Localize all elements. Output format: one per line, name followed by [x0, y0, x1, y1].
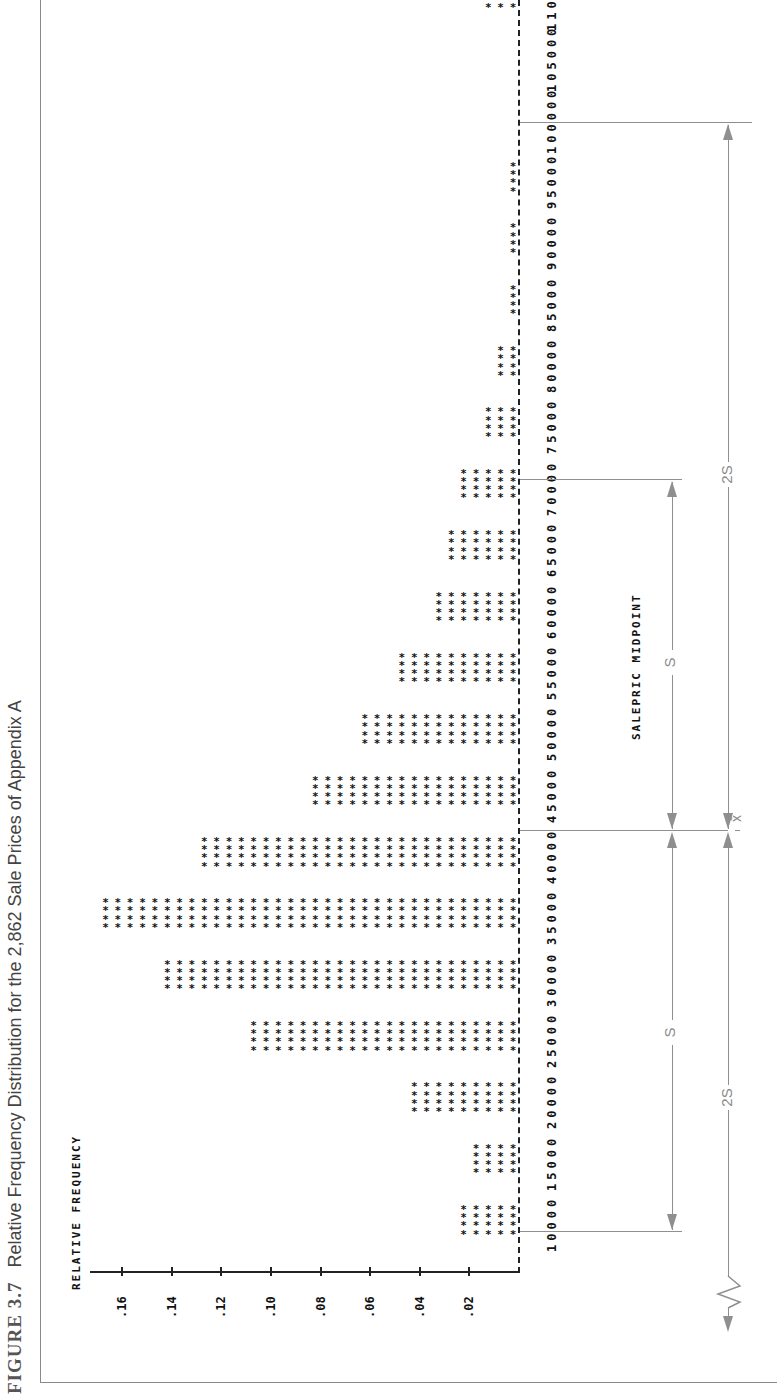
frame-bottom-border [40, 1382, 777, 1383]
mean-reference-line [520, 830, 740, 831]
bar-star: * [286, 1045, 296, 1056]
bar-star: * [471, 1229, 481, 1240]
bar-star: * [496, 370, 506, 381]
bar-star: * [508, 983, 518, 994]
bar-star: * [273, 861, 283, 872]
bar-star: * [347, 861, 357, 872]
bar-star: * [298, 922, 308, 933]
bar-star: * [360, 983, 370, 994]
y-tick-label: .02 [462, 1296, 476, 1318]
bar-star: * [483, 615, 493, 626]
bar-star: * [508, 922, 518, 933]
bar-star: * [409, 1106, 419, 1117]
arrow-up-icon [723, 832, 733, 848]
bar-star: * [162, 983, 172, 994]
bar-star: * [360, 1045, 370, 1056]
bar-star: * [409, 676, 419, 687]
plus-2s-label: 2S [717, 462, 735, 487]
x-tick-label: 85000 [545, 276, 559, 332]
bar-star: * [397, 922, 407, 933]
bar-star: * [496, 1106, 506, 1117]
bar-star: * [409, 861, 419, 872]
bar-star: * [471, 983, 481, 994]
bar-star: * [212, 922, 222, 933]
bar-star: * [236, 922, 246, 933]
bar-star: * [261, 922, 271, 933]
bar-star: * [459, 738, 469, 749]
bar-star: * [199, 861, 209, 872]
bar-star: * [273, 983, 283, 994]
bar-star: * [224, 983, 234, 994]
bar-star: * [360, 861, 370, 872]
arrow-up-icon [667, 832, 677, 848]
arrow-down-icon [723, 813, 733, 829]
arrow-down-icon [667, 1214, 677, 1230]
figure-number: FIGURE 3.7 [4, 1282, 25, 1394]
bar-star: * [224, 861, 234, 872]
bar-star: * [446, 1045, 456, 1056]
y-tick-label: .06 [363, 1296, 377, 1318]
bar-star: * [298, 861, 308, 872]
bar-star: * [335, 861, 345, 872]
bar-star: * [138, 922, 148, 933]
bar-star: * [483, 738, 493, 749]
x-tick-label: 20000 [545, 1073, 559, 1129]
arrow-down-icon [667, 813, 677, 829]
bar-star: * [372, 861, 382, 872]
y-tick-mark [270, 1267, 272, 1276]
minus-s-label: S [664, 1020, 674, 1045]
figure-title: Relative Frequency Distribution for the … [5, 700, 25, 1267]
y-tick-mark [121, 1267, 123, 1276]
bar-star: * [273, 922, 283, 933]
bar-star: * [434, 922, 444, 933]
bar-star: * [434, 799, 444, 810]
bar-star: * [483, 799, 493, 810]
bar-star: * [508, 2, 518, 13]
bar-star: * [310, 983, 320, 994]
bar-star: * [249, 922, 259, 933]
bar-star: * [199, 983, 209, 994]
bar-star: * [286, 861, 296, 872]
bar-star: * [496, 2, 506, 13]
bar-star: * [249, 1045, 259, 1056]
minus-2s-dimension-line [728, 840, 729, 1276]
bar-star: * [434, 1106, 444, 1117]
bar-star: * [459, 554, 469, 565]
x-tick-label: 50000 [545, 705, 559, 761]
x-tick-label: 10000 [545, 1196, 559, 1252]
bar-star: * [397, 1045, 407, 1056]
bar-star: * [422, 861, 432, 872]
bar-star: * [298, 983, 308, 994]
arrow-down-icon [723, 1316, 733, 1332]
x-axis-title: SALEPRIC MIDPOINT [630, 593, 643, 740]
bar-star: * [150, 922, 160, 933]
minus-s-reference-line [520, 1231, 682, 1232]
bar-star: * [175, 922, 185, 933]
bar-star: * [483, 922, 493, 933]
bar-star: * [385, 983, 395, 994]
bar-star: * [471, 676, 481, 687]
bar-star: * [335, 983, 345, 994]
bar-star: * [471, 799, 481, 810]
bar-star: * [249, 983, 259, 994]
bar-star: * [347, 983, 357, 994]
bar-star: * [347, 922, 357, 933]
x-tick-label: 40000 [545, 828, 559, 884]
bar-star: * [372, 1045, 382, 1056]
bar-star: * [397, 861, 407, 872]
plus-s-reference-line [520, 479, 682, 480]
bar-star: * [508, 554, 518, 565]
bar-star: * [310, 799, 320, 810]
bar-star: * [422, 799, 432, 810]
bar-star: * [335, 1045, 345, 1056]
bar-star: * [236, 983, 246, 994]
bar-star: * [483, 1167, 493, 1178]
plus-s-label: S [664, 650, 674, 675]
bar-star: * [459, 492, 469, 503]
y-axis-title: RELATIVE FREQUENCY [70, 1135, 83, 1290]
bar-star: * [409, 922, 419, 933]
minus-2s-label: 2S [717, 1085, 735, 1110]
bar-star: * [483, 676, 493, 687]
bar-star: * [434, 738, 444, 749]
bar-star: * [471, 922, 481, 933]
